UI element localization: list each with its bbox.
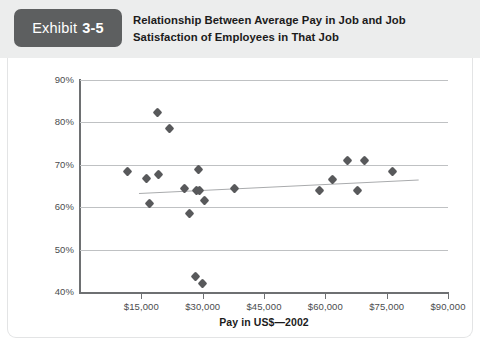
gridline-y [80,207,448,208]
x-axis-tick-label: $60,000 [295,301,355,312]
exhibit-tag: Exhibit 3-5 [14,9,122,47]
exhibit-title-line-2: Satisfaction of Employees in That Job [133,29,453,46]
data-point [190,272,200,282]
data-point [185,208,195,218]
gridline-y [80,122,448,123]
x-axis-tick-label: $45,000 [234,301,294,312]
x-axis-title: Pay in US$—2002 [80,316,448,328]
y-axis-tick-label: 40% [30,286,74,297]
exhibit-figure: Exhibit 3-5 Relationship Between Average… [0,0,480,352]
gridline-y [80,165,448,166]
x-axis-tick [141,294,142,299]
exhibit-title-line-1: Relationship Between Average Pay in Job … [133,12,453,29]
y-axis-tick-label: 70% [30,159,74,170]
x-axis-tick-label: $75,000 [357,301,417,312]
x-axis-tick-label: $15,000 [111,301,171,312]
y-axis-tick-label: 50% [30,244,74,255]
data-point [153,107,163,117]
x-axis-tick [203,294,204,299]
exhibit-tag-word: Exhibit [32,20,77,36]
data-point [352,185,362,195]
data-point [153,170,163,180]
data-point [200,196,210,206]
x-axis-tick-label: $90,000 [418,301,478,312]
exhibit-title: Relationship Between Average Pay in Job … [133,12,453,46]
x-axis-tick [448,294,449,299]
data-point [165,123,175,133]
x-axis-tick-label: $30,000 [173,301,233,312]
y-axis-tick-label: 60% [30,201,74,212]
data-point [230,183,240,193]
y-axis-tick-label: 90% [30,74,74,85]
gridline-y [80,250,448,251]
plot-area [80,80,448,292]
data-point [141,173,151,183]
data-point [179,184,189,194]
x-axis-tick [325,294,326,299]
data-point [198,279,208,289]
gridline-y [80,80,448,81]
y-axis-tick-label: 80% [30,116,74,127]
data-point [388,167,398,177]
exhibit-tag-number: 3-5 [82,20,104,36]
data-point [314,185,324,195]
x-axis-tick [387,294,388,299]
data-point [123,167,133,177]
exhibit-header: Exhibit 3-5 Relationship Between Average… [0,0,480,58]
x-axis-tick [264,294,265,299]
